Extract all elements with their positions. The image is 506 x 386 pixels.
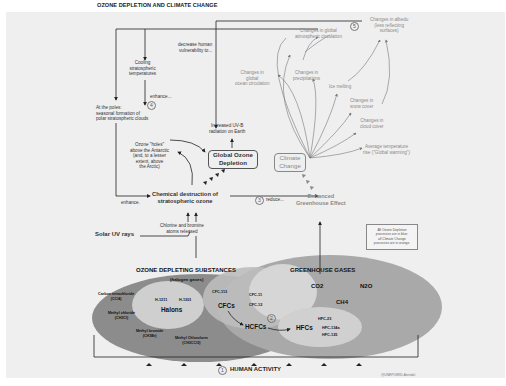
enhance-label: enhance... — [150, 94, 171, 100]
halons-circle — [132, 281, 204, 329]
halons-label: Halons — [161, 307, 182, 313]
chemical-destruction-label: Chemical destruction of stratospheric oz… — [152, 191, 218, 205]
ice-melting-label: Ice melting — [329, 84, 351, 90]
h1211-label: H-1211 — [155, 298, 167, 304]
h1301-label: H-1301 — [179, 298, 191, 304]
hfc134a-label: HFC-134a — [322, 326, 340, 332]
ods-subtitle: (halogen gases) — [170, 277, 203, 283]
snow-cover-label: Changes in snow cover — [350, 98, 373, 109]
carbon-tetrachloride-label: Carbon tetrachloride (CCl4) — [98, 292, 134, 301]
legend-text: All Ozone Depletion processes are in blu… — [374, 228, 410, 245]
ghg-title: GREENHOUSE GASES — [290, 268, 355, 274]
cfc12-label: CFC-12 — [249, 303, 262, 309]
polar-clouds-label: At the poles: seasonal formation of pola… — [96, 105, 148, 122]
step-3-badge: 3 — [255, 196, 264, 205]
n2o-label: N2O — [360, 284, 372, 290]
albedo-label: Changes in albedu (less reflecting surfa… — [370, 17, 408, 34]
hcfcs-label: HCFCs — [245, 324, 266, 330]
legend-box: All Ozone Depletion processes are in blu… — [366, 224, 418, 250]
methyl-bromide-label: Methyl bromide (CH3Br) — [136, 329, 163, 338]
reduce-label: reduce... — [266, 197, 284, 203]
chlorine-bromine-label: Chlorine and bromine atoms released — [160, 223, 204, 234]
ozone-holes-label: Ozone "holes" above the Antarctic (and, … — [130, 142, 169, 170]
cfc11-label: CFC-11 — [249, 293, 262, 299]
climate-change-box: Climate Change — [274, 153, 306, 172]
cfc113-label: CFC-113 — [212, 290, 227, 296]
uvb-radiation-label: Increased UV-B radiation on Earth — [209, 123, 245, 134]
average-temperature-label: Average temperature rise ("Global warmin… — [363, 144, 410, 155]
ods-title: OZONE DEPLETING SUBSTANCES — [136, 268, 236, 274]
methyl-chloride-label: Methyl chloride (CH3Cl) — [108, 311, 135, 320]
greenhouse-effect-label: Enhanced Greenhouse Effect — [296, 193, 346, 207]
step-2-badge: 2 — [267, 314, 276, 323]
hfc125-label: HFC-125 — [322, 333, 337, 339]
precipitations-label: Changes in precipitations — [293, 70, 320, 81]
global-ozone-depletion-box: Global Ozone Depletion — [208, 150, 258, 169]
co2-label: CO2 — [311, 284, 323, 290]
hfcs-circle — [278, 307, 362, 347]
enhance-left-label: enhance. — [121, 200, 140, 206]
human-activity-label: HUMAN ACTIVITY — [230, 367, 281, 373]
step-4-badge: 4 — [147, 101, 156, 110]
credit-label: @UNEP/GRID-Arendal — [381, 373, 415, 379]
hfc23-label: HFC-23 — [318, 317, 331, 323]
cloud-cover-label: Changes in cloud cover — [360, 118, 384, 129]
cfcs-label: CFCs — [218, 303, 235, 309]
step-1-badge: 1 — [218, 366, 227, 375]
step-5-badge: 5 — [350, 22, 359, 31]
ch4-label: CH4 — [336, 300, 348, 306]
ocean-circulation-label: Changes in global ocean circulation — [235, 70, 269, 87]
decrease-vulnerability-label: decrease human vulnerability to... — [178, 42, 212, 53]
hfcs-label: HFCs — [296, 325, 313, 331]
methyl-chloroform-label: Methyl Chloroform (CH3CCl3) — [175, 336, 208, 345]
solar-uv-label: Solar UV rays — [95, 232, 134, 238]
cooling-temperatures-label: Cooling stratospheric temperatures — [129, 60, 156, 77]
atmospheric-circulation-label: Changes in global atmospheric circulatio… — [295, 28, 342, 39]
